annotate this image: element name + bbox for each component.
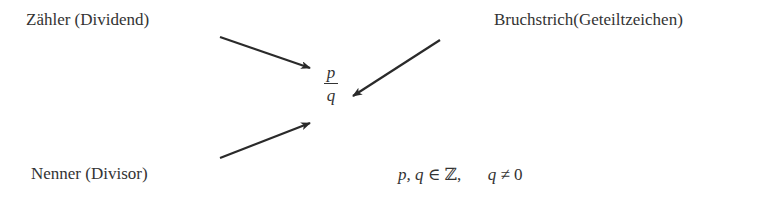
arrow-to-fraction-bar-icon [353,40,440,96]
arrow-to-numerator-icon [220,37,310,68]
arrows-layer [0,0,778,207]
arrow-to-denominator-icon [220,123,310,158]
